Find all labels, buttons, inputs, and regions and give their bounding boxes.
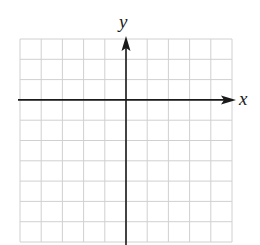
y-axis-label: y <box>119 12 127 31</box>
x-axis-label: x <box>239 89 247 108</box>
x-axis <box>18 95 236 104</box>
coordinate-grid-svg <box>0 0 260 245</box>
coordinate-plane: y x <box>0 0 260 245</box>
